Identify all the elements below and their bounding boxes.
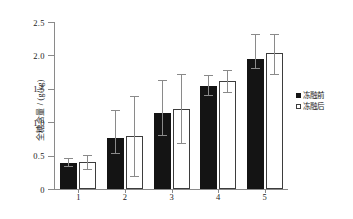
y-axis-tick-label: 1.5	[33, 85, 45, 94]
error-bar	[208, 75, 209, 96]
bar-group-inner	[60, 22, 96, 189]
legend-item-label: 冻融后	[303, 101, 325, 112]
error-bar-cap-bottom	[64, 166, 73, 167]
error-bar-cap-bottom	[158, 135, 167, 136]
bar-chart-figure: 全糖含量 / (g/kg) 00.51.01.52.02.5 12345 冻融前…	[0, 0, 353, 219]
bar-group	[200, 22, 236, 189]
error-bar-cap-bottom	[177, 143, 186, 144]
error-bar-cap-bottom	[204, 95, 213, 96]
chart-legend: 冻融前 冻融后	[296, 90, 325, 112]
bar-group-inner	[154, 22, 190, 189]
error-bar-cap-bottom	[111, 153, 120, 154]
bar-before	[247, 59, 264, 189]
y-axis-tick-label: 2.5	[33, 18, 45, 27]
y-axis-tick: 1.5	[48, 89, 54, 90]
y-axis-tick-label: 0.5	[33, 152, 45, 161]
error-bar-cap-top	[158, 80, 167, 81]
bar-before	[200, 86, 217, 189]
y-axis-tick: 2.0	[48, 55, 54, 56]
y-axis-tick-label: 0	[40, 185, 45, 194]
y-axis-tick-label: 1.0	[33, 118, 45, 127]
error-bar-cap-top	[130, 96, 139, 97]
error-bar	[274, 34, 275, 75]
y-axis-tick-label: 2.0	[33, 52, 45, 61]
error-bar	[87, 155, 88, 170]
bar-group	[154, 22, 190, 189]
error-bar-cap-bottom	[83, 169, 92, 170]
error-bar-cap-top	[64, 158, 73, 159]
error-bar-cap-top	[204, 75, 213, 76]
x-axis-tick-label: 1	[58, 193, 98, 202]
error-bar	[227, 70, 228, 93]
bar-group-inner	[107, 22, 143, 189]
bar-group	[60, 22, 96, 189]
error-bar-cap-top	[111, 110, 120, 111]
error-bar-cap-bottom	[130, 176, 139, 177]
error-bar-cap-top	[83, 155, 92, 156]
error-bar	[68, 158, 69, 167]
y-axis-tick: 1.0	[48, 122, 54, 123]
x-axis-tick-label: 5	[245, 193, 285, 202]
bar-group	[247, 22, 283, 189]
x-axis-tick-label: 3	[152, 193, 192, 202]
error-bar-cap-top	[223, 70, 232, 71]
error-bar-cap-bottom	[270, 74, 279, 75]
y-axis-tick: 0.5	[48, 156, 54, 157]
error-bar-cap-bottom	[251, 68, 260, 69]
error-bar-cap-top	[270, 34, 279, 35]
filled-square-marker-icon	[296, 93, 301, 98]
bar-group-inner	[247, 22, 283, 189]
legend-item-after: 冻融后	[296, 101, 325, 112]
bar-after	[219, 81, 236, 189]
error-bar-cap-top	[251, 34, 260, 35]
bar-group-inner	[200, 22, 236, 189]
y-axis-tick: 2.5	[48, 22, 54, 23]
x-axis-tick-label: 4	[198, 193, 238, 202]
plot-area	[55, 22, 288, 189]
error-bar	[255, 34, 256, 69]
error-bar	[134, 96, 135, 177]
error-bar-cap-top	[177, 74, 186, 75]
error-bar	[162, 80, 163, 135]
open-square-marker-icon	[296, 104, 301, 109]
error-bar	[181, 74, 182, 144]
error-bar-cap-bottom	[223, 92, 232, 93]
x-axis-tick-label: 2	[105, 193, 145, 202]
y-axis-tick: 0	[48, 189, 54, 190]
bar-group	[107, 22, 143, 189]
legend-item-label: 冻融前	[303, 90, 325, 101]
error-bar	[115, 110, 116, 153]
legend-item-before: 冻融前	[296, 90, 325, 101]
